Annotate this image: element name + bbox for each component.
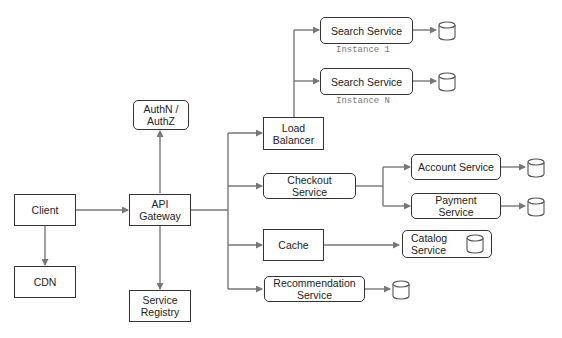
- client-label: Client: [32, 204, 59, 216]
- auth-label: AuthN / AuthZ: [143, 103, 178, 127]
- payment-service-label: Payment Service: [435, 194, 476, 218]
- search-service-1-node: Search Service: [320, 17, 413, 44]
- search-service-n-node: Search Service: [320, 68, 413, 95]
- database-icon: [438, 72, 456, 92]
- checkout-service-label: Checkout Service: [287, 174, 331, 198]
- client-node: Client: [14, 194, 76, 226]
- cdn-label: CDN: [34, 276, 57, 288]
- recommendation-service-label: Recommendation Service: [273, 277, 355, 301]
- checkout-service-node: Checkout Service: [263, 173, 356, 199]
- catalog-service-label: Catalog Service: [411, 232, 447, 256]
- payment-service-node: Payment Service: [411, 193, 501, 219]
- account-service-node: Account Service: [411, 154, 501, 180]
- database-icon: [392, 280, 410, 300]
- cdn-node: CDN: [14, 266, 76, 298]
- service-registry-node: Service Registry: [129, 290, 191, 322]
- instance-1-label: Instance 1: [336, 45, 390, 55]
- search-service-n-label: Search Service: [331, 76, 402, 88]
- database-icon: [466, 234, 484, 254]
- search-service-1-label: Search Service: [331, 25, 402, 37]
- instance-n-label: Instance N: [336, 96, 390, 106]
- api-gateway-node: API Gateway: [129, 194, 191, 226]
- account-service-label: Account Service: [418, 161, 494, 173]
- recommendation-service-node: Recommendation Service: [264, 276, 365, 302]
- database-icon: [527, 197, 545, 217]
- api-gateway-label: API Gateway: [139, 198, 180, 222]
- cache-node: Cache: [263, 229, 324, 261]
- service-registry-label: Service Registry: [141, 294, 180, 318]
- cache-label: Cache: [278, 239, 308, 251]
- load-balancer-node: Load Balancer: [263, 117, 324, 150]
- load-balancer-label: Load Balancer: [273, 122, 314, 146]
- database-icon: [527, 158, 545, 178]
- database-icon: [438, 21, 456, 41]
- auth-node: AuthN / AuthZ: [133, 100, 189, 130]
